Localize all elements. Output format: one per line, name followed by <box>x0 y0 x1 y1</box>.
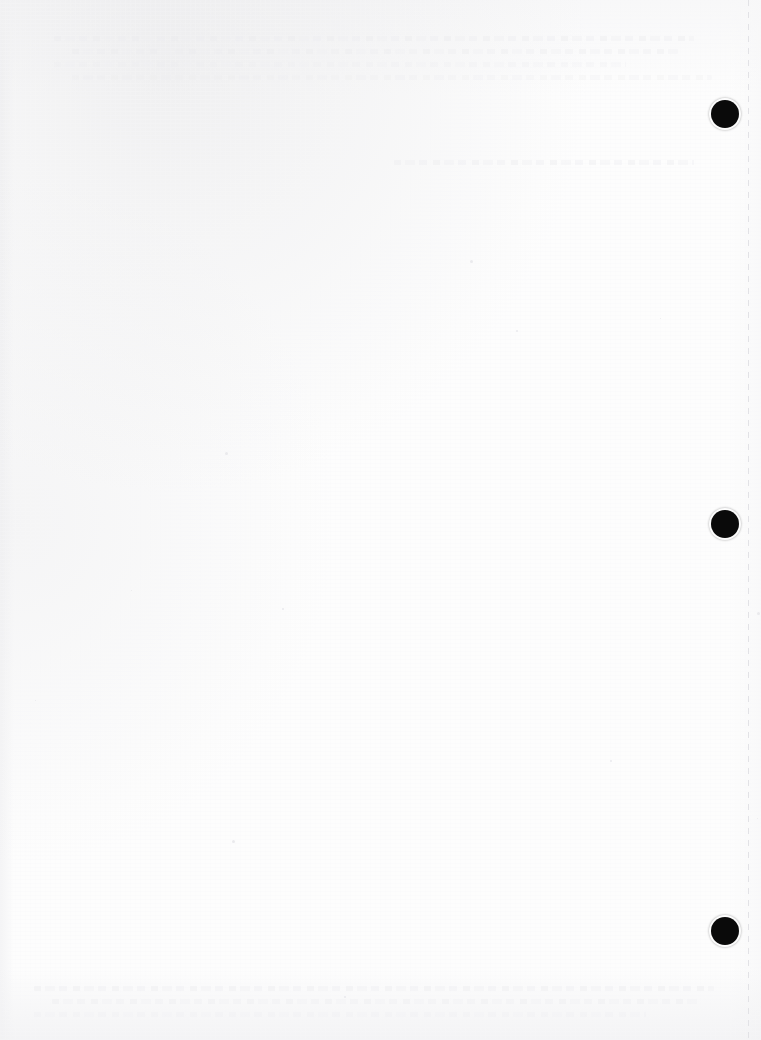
registration-mark-middle <box>711 510 739 538</box>
registration-mark-bottom <box>711 917 739 945</box>
paper-background <box>0 0 761 1040</box>
registration-mark-top <box>711 100 739 128</box>
scanned-page <box>0 0 761 1040</box>
